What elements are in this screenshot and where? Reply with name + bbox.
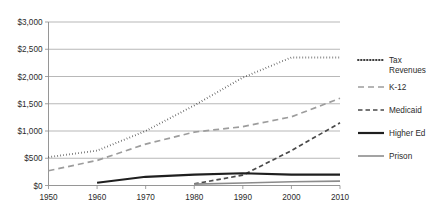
x-tick-marks <box>49 186 341 190</box>
series-line-prison <box>194 181 340 184</box>
series-line-k-12 <box>49 98 341 170</box>
y-axis-tick-label: $1,000 <box>17 127 42 136</box>
y-axis-tick-label: $3,000 <box>17 18 42 27</box>
y-axis-tick-label: $1,500 <box>17 100 42 109</box>
x-axis-tick-label: 2010 <box>331 193 350 202</box>
gridlines <box>49 22 341 158</box>
y-axis-tick-label: $2,000 <box>17 73 42 82</box>
x-axis-tick-label: 1950 <box>39 193 58 202</box>
line-chart: $0$500$1,000$1,500$2,000$2,500$3,000 195… <box>0 0 439 221</box>
legend-label-k-12: K-12 <box>389 83 407 92</box>
chart-legend: TaxRevenuesK-12MedicaidHigher EdPrison <box>358 56 426 161</box>
x-axis-tick-label: 1990 <box>234 193 253 202</box>
y-axis-tick-label: $0 <box>33 182 43 191</box>
y-axis-labels: $0$500$1,000$1,500$2,000$2,500$3,000 <box>17 18 42 191</box>
y-axis-tick-label: $500 <box>24 154 43 163</box>
y-tick-marks <box>45 22 49 186</box>
y-axis-tick-label: $2,500 <box>17 45 42 54</box>
x-axis-tick-label: 1970 <box>137 193 156 202</box>
x-axis-tick-label: 1980 <box>185 193 204 202</box>
legend-label-higher-ed: Higher Ed <box>389 129 426 138</box>
x-axis-tick-label: 1960 <box>88 193 107 202</box>
legend-label-tax-revenues: TaxRevenues <box>389 56 426 75</box>
x-axis-labels: 1950196019701980199020002010 <box>39 193 349 202</box>
chart-container: $0$500$1,000$1,500$2,000$2,500$3,000 195… <box>0 0 439 221</box>
series-line-tax-revenues <box>49 57 341 157</box>
x-axis-tick-label: 2000 <box>282 193 301 202</box>
legend-label-medicaid: Medicaid <box>389 106 422 115</box>
legend-label-prison: Prison <box>389 152 413 161</box>
